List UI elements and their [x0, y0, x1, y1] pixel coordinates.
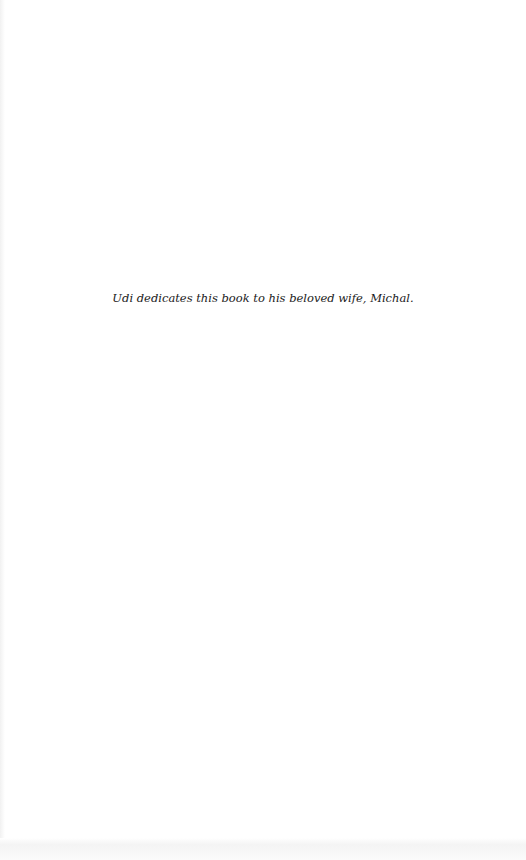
page-bottom-edge-shadow: [0, 838, 526, 860]
page-left-edge-shadow: [0, 0, 5, 860]
dedication-text: Udi dedicates this book to his beloved w…: [0, 291, 526, 305]
book-page: Udi dedicates this book to his beloved w…: [0, 0, 526, 860]
